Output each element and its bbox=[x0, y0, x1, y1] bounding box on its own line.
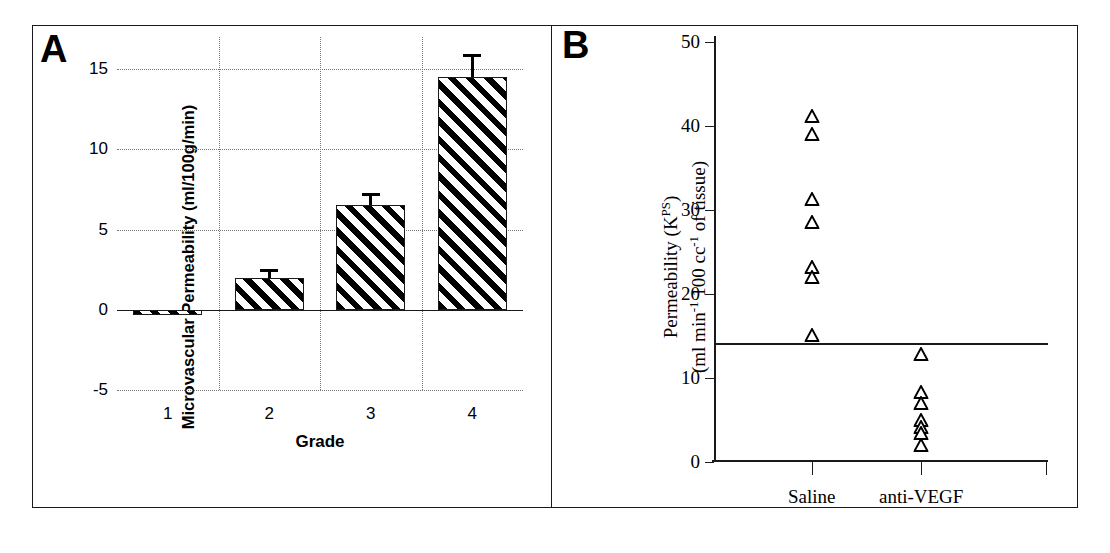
panel-a-x-tick-label: 4 bbox=[468, 404, 477, 424]
panel-b-x-axis-line bbox=[712, 460, 1048, 462]
panel-b-y-tick-label: 20 bbox=[681, 283, 700, 305]
panel-a-error-bar bbox=[471, 54, 474, 77]
panel-a-bar[interactable] bbox=[336, 205, 405, 309]
panel-a-y-tick-label: 0 bbox=[99, 300, 108, 320]
panel-a-gridline-x bbox=[219, 37, 220, 390]
y-label-units-a: (ml min bbox=[688, 312, 709, 373]
panel-b-y-axis-label-line2: (ml min-1 100 cc-1 of tissue) bbox=[685, 160, 713, 372]
y-label-perm-close: ) bbox=[660, 195, 681, 201]
panel-b-y-tick bbox=[705, 126, 714, 127]
panel-a-error-bar-cap bbox=[362, 193, 380, 196]
panel-b-x-tick bbox=[1046, 462, 1047, 475]
panel-a-bar[interactable] bbox=[235, 278, 304, 310]
panel-a-bar[interactable] bbox=[133, 310, 202, 315]
figure-root: A Microvascular Permeability (ml/100g/mi… bbox=[0, 0, 1110, 553]
panel-b-y-tick bbox=[705, 42, 714, 43]
panel-b-y-tick-label: 30 bbox=[681, 199, 700, 221]
panel-a-x-tick-label: 2 bbox=[265, 404, 274, 424]
panel-b-data-point-triangle-marker[interactable] bbox=[914, 347, 929, 361]
panel-b-data-point-triangle-marker[interactable] bbox=[914, 438, 929, 452]
panel-a-error-bar-cap bbox=[463, 54, 481, 57]
panel-a: A Microvascular Permeability (ml/100g/mi… bbox=[32, 25, 551, 508]
panel-b-data-point-triangle-marker[interactable] bbox=[804, 270, 819, 284]
panel-a-gridline-y bbox=[117, 390, 523, 391]
panel-b-y-tick-label: 40 bbox=[681, 115, 700, 137]
panel-a-y-tick-label: 15 bbox=[89, 59, 108, 79]
panel-b-y-tick bbox=[705, 294, 714, 295]
panel-b-y-axis-line bbox=[714, 36, 716, 462]
panel-a-error-bar-cap bbox=[260, 269, 278, 272]
panel-a-letter: A bbox=[40, 30, 67, 68]
panel-b-y-axis-label-line1: Permeability (KPS) bbox=[657, 160, 685, 372]
panel-b-letter: B bbox=[562, 26, 589, 64]
y-label-perm-text: Permeability (K bbox=[660, 216, 681, 338]
panel-b-y-tick bbox=[705, 378, 714, 379]
panel-b-x-tick-label: Saline bbox=[788, 486, 836, 508]
panel-b-data-point-triangle-marker[interactable] bbox=[804, 127, 819, 141]
panel-b-x-tick bbox=[812, 462, 813, 475]
panel-b-y-tick-label: 0 bbox=[691, 451, 701, 473]
panel-a-plot-area: Grade -50510151234 bbox=[117, 37, 523, 390]
panel-a-bar[interactable] bbox=[438, 77, 507, 310]
panel-a-x-tick-label: 3 bbox=[366, 404, 375, 424]
panel-b-data-point-triangle-marker[interactable] bbox=[804, 328, 819, 342]
panel-b-data-point-triangle-marker[interactable] bbox=[804, 192, 819, 206]
panel-a-gridline-x bbox=[422, 37, 423, 390]
y-label-perm-sup: PS bbox=[658, 202, 673, 216]
panel-b: B Permeability (KPS) (ml min-1 100 cc-1 … bbox=[551, 25, 1078, 508]
y-label-units-c: of tissue) bbox=[688, 160, 709, 235]
panel-b-x-tick-label: anti-VEGF bbox=[879, 486, 963, 508]
panel-b-threshold-line bbox=[714, 343, 1048, 345]
panel-a-y-tick-label: 5 bbox=[99, 220, 108, 240]
panel-a-y-tick-label: -5 bbox=[93, 380, 108, 400]
panel-b-data-point-triangle-marker[interactable] bbox=[914, 396, 929, 410]
y-label-units-sup2: -1 bbox=[686, 235, 701, 246]
panel-b-data-point-triangle-marker[interactable] bbox=[804, 109, 819, 123]
panel-a-y-tick-label: 10 bbox=[89, 139, 108, 159]
panel-b-y-tick bbox=[705, 462, 714, 463]
panel-b-y-tick-label: 10 bbox=[681, 367, 700, 389]
panel-b-plot-area: 01020304050Salineanti-VEGF bbox=[714, 42, 1010, 462]
panel-b-y-tick bbox=[705, 210, 714, 211]
panel-b-y-tick-label: 50 bbox=[681, 31, 700, 53]
panel-b-y-axis-label: Permeability (KPS) (ml min-1 100 cc-1 of… bbox=[657, 160, 713, 372]
panel-a-x-tick-label: 1 bbox=[163, 404, 172, 424]
panel-a-gridline-x bbox=[320, 37, 321, 390]
panel-b-data-point-triangle-marker[interactable] bbox=[804, 215, 819, 229]
panel-a-x-axis-label: Grade bbox=[117, 432, 523, 452]
panel-b-x-tick bbox=[921, 462, 922, 475]
